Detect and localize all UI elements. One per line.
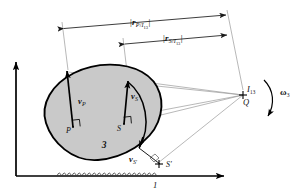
right-angle-marker-s-prime [150, 154, 159, 162]
vector-vs-prime-label: vS′ [129, 154, 138, 165]
dimension-rp-label: |rP/I13| [130, 17, 150, 30]
point-s-marker [123, 123, 125, 125]
kinematics-figure: |rP/I13| |rS/I13| 3 vP [0, 0, 298, 191]
extension-line-p [62, 22, 68, 70]
ground-link-label: 1 [153, 180, 157, 190]
point-p-marker [72, 126, 74, 128]
omega-arc-arrow [264, 80, 273, 116]
point-i13-label: I13 [246, 84, 256, 95]
point-s-prime-label: S′ [166, 160, 172, 169]
body-3-label: 3 [101, 140, 107, 150]
diagram-canvas: |rP/I13| |rS/I13| 3 vP [0, 0, 298, 191]
ground-hatching [57, 173, 157, 176]
angular-velocity-group: ω3 [264, 80, 290, 116]
extension-line-q-up [227, 10, 243, 90]
point-q-label: Q [243, 97, 249, 107]
dimension-rp: |rP/I13| [64, 15, 226, 30]
rigid-body-3: 3 [44, 65, 161, 161]
point-s-label: S [117, 124, 121, 133]
dimension-rs-label: |rS/I13| [163, 33, 183, 46]
dimension-rs: |rS/I13| [125, 33, 227, 46]
omega-3-label: ω3 [280, 87, 290, 98]
point-p-label: P [65, 126, 71, 135]
